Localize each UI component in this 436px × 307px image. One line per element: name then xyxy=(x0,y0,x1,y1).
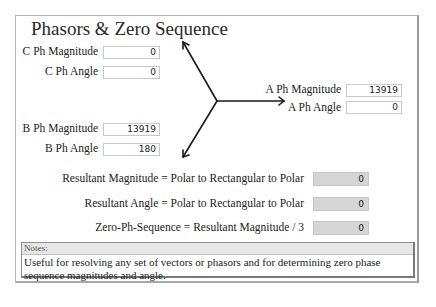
resultant-magnitude-output: 0 xyxy=(313,172,369,186)
zero-sequence-label: Zero-Ph-Sequence = Resultant Magnitude /… xyxy=(40,221,304,233)
notes-header: Notes: xyxy=(22,243,413,255)
resultant-angle-label: Resultant Angle = Polar to Rectangular t… xyxy=(40,197,304,209)
notes-body: Useful for resolving any set of vectors … xyxy=(24,256,412,282)
resultant-magnitude-label: Resultant Magnitude = Polar to Rectangul… xyxy=(40,172,304,184)
zero-sequence-output: 0 xyxy=(313,221,369,235)
resultant-angle-output: 0 xyxy=(313,197,369,211)
